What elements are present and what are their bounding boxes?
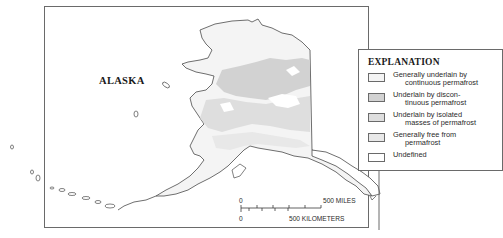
- scale-km-label: 500 KILOMETERS: [289, 215, 344, 222]
- legend: EXPLANATION Generally underlain by conti…: [358, 49, 503, 171]
- aleutian-islands: [11, 81, 171, 208]
- legend-title: EXPLANATION: [368, 57, 440, 67]
- legend-text: Undefined: [393, 150, 427, 159]
- scale-km-zero: 0: [239, 215, 243, 222]
- scale-miles-label: 500 MILES: [323, 197, 356, 204]
- swatch-free: [368, 133, 385, 142]
- swatch-isolated: [368, 113, 385, 122]
- swatch-undefined: [368, 153, 385, 162]
- scale-miles-zero: 0: [239, 197, 243, 204]
- legend-text: continuous permafrost: [393, 79, 478, 87]
- swatch-continuous: [368, 73, 385, 82]
- state-label: ALASKA: [99, 75, 145, 86]
- scale-bar: [241, 205, 321, 212]
- swatch-discontinuous: [368, 93, 385, 102]
- legend-text: masses of permafrost: [393, 119, 476, 127]
- legend-text: permafrost: [393, 139, 456, 147]
- legend-text: tinuous permafrost: [393, 99, 466, 107]
